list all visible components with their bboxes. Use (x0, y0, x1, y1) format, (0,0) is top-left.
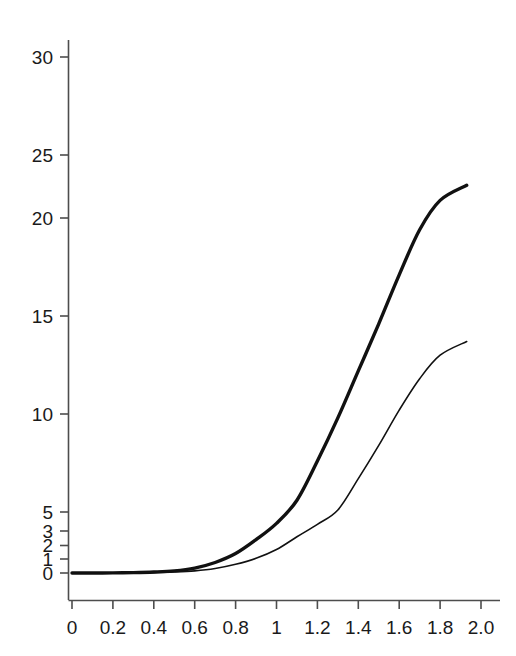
y-tick-label: 20 (32, 208, 53, 229)
x-tick-label: 0.4 (141, 617, 168, 638)
y-tick-label: 25 (32, 145, 53, 166)
line-chart: 012351015202530 00.20.40.60.811.21.41.61… (0, 0, 516, 656)
x-tick-label: 1.4 (345, 617, 372, 638)
x-tick-label: 1.8 (427, 617, 453, 638)
y-tick-label: 30 (32, 47, 53, 68)
x-tick-label: 0.8 (222, 617, 248, 638)
chart-figure: 012351015202530 00.20.40.60.811.21.41.61… (0, 0, 516, 656)
x-tick-label: 0.6 (181, 617, 207, 638)
y-tick-label: 15 (32, 306, 53, 327)
x-tick-label: 2.0 (468, 617, 494, 638)
x-tick-label: 0 (67, 617, 78, 638)
y-tick-label: 5 (42, 502, 53, 523)
y-tick-label: 10 (32, 404, 53, 425)
x-tick-label: 1 (271, 617, 282, 638)
x-tick-label: 1.6 (386, 617, 412, 638)
x-tick-label: 1.2 (304, 617, 330, 638)
y-tick-label: 3 (42, 521, 53, 542)
x-tick-label: 0.2 (100, 617, 126, 638)
